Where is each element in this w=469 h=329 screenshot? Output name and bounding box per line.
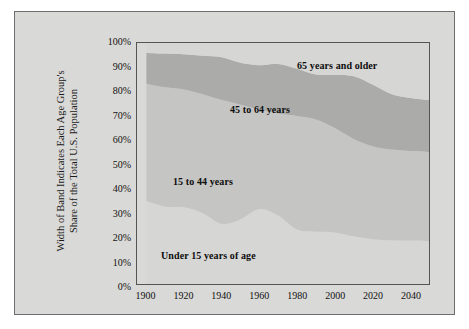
- x-tick-label: 2040: [401, 290, 421, 301]
- x-tick-label: 1900: [135, 290, 155, 301]
- band-label-45-to-64: 45 to 64 years: [230, 104, 290, 115]
- x-axis-tick-labels: 19001920194019601980200020202040: [136, 290, 430, 306]
- y-tick-label: 30%: [113, 207, 131, 218]
- y-tick-label: 10%: [113, 256, 131, 267]
- y-tick-label: 90%: [113, 60, 131, 71]
- x-tick-label: 2020: [363, 290, 383, 301]
- y-tick-label: 70%: [113, 109, 131, 120]
- y-axis-label: Width of Band Indicates Each Age Group's…: [37, 40, 99, 282]
- y-tick-label: 40%: [113, 183, 131, 194]
- figure-root: Width of Band Indicates Each Age Group's…: [0, 0, 469, 329]
- y-tick-label: 100%: [108, 36, 131, 47]
- band-label-65-and-older: 65 years and older: [297, 60, 377, 71]
- y-tick-label: 60%: [113, 134, 131, 145]
- plot-area: 65 years and older 45 to 64 years 15 to …: [136, 42, 430, 285]
- y-axis-tick-labels: 100%90%80%70%60%50%40%30%20%10%0%: [93, 38, 131, 289]
- y-tick-label: 80%: [113, 85, 131, 96]
- y-axis-label-line-2: Share of the Total U.S. Population: [68, 89, 81, 233]
- stacked-area-series: [137, 43, 429, 284]
- y-tick-label: 0%: [118, 281, 131, 292]
- band-label-under-15: Under 15 years of age: [161, 250, 256, 261]
- y-tick-label: 50%: [113, 158, 131, 169]
- y-tick-label: 20%: [113, 232, 131, 243]
- x-tick-label: 2000: [325, 290, 345, 301]
- x-tick-label: 1980: [287, 290, 307, 301]
- figure-plate: Width of Band Indicates Each Age Group's…: [14, 11, 455, 315]
- x-tick-label: 1940: [211, 290, 231, 301]
- y-axis-label-line-1: Width of Band Indicates Each Age Group's: [55, 70, 68, 251]
- band-label-15-to-44: 15 to 44 years: [173, 176, 233, 187]
- x-tick-label: 1920: [173, 290, 193, 301]
- x-tick-label: 1960: [249, 290, 269, 301]
